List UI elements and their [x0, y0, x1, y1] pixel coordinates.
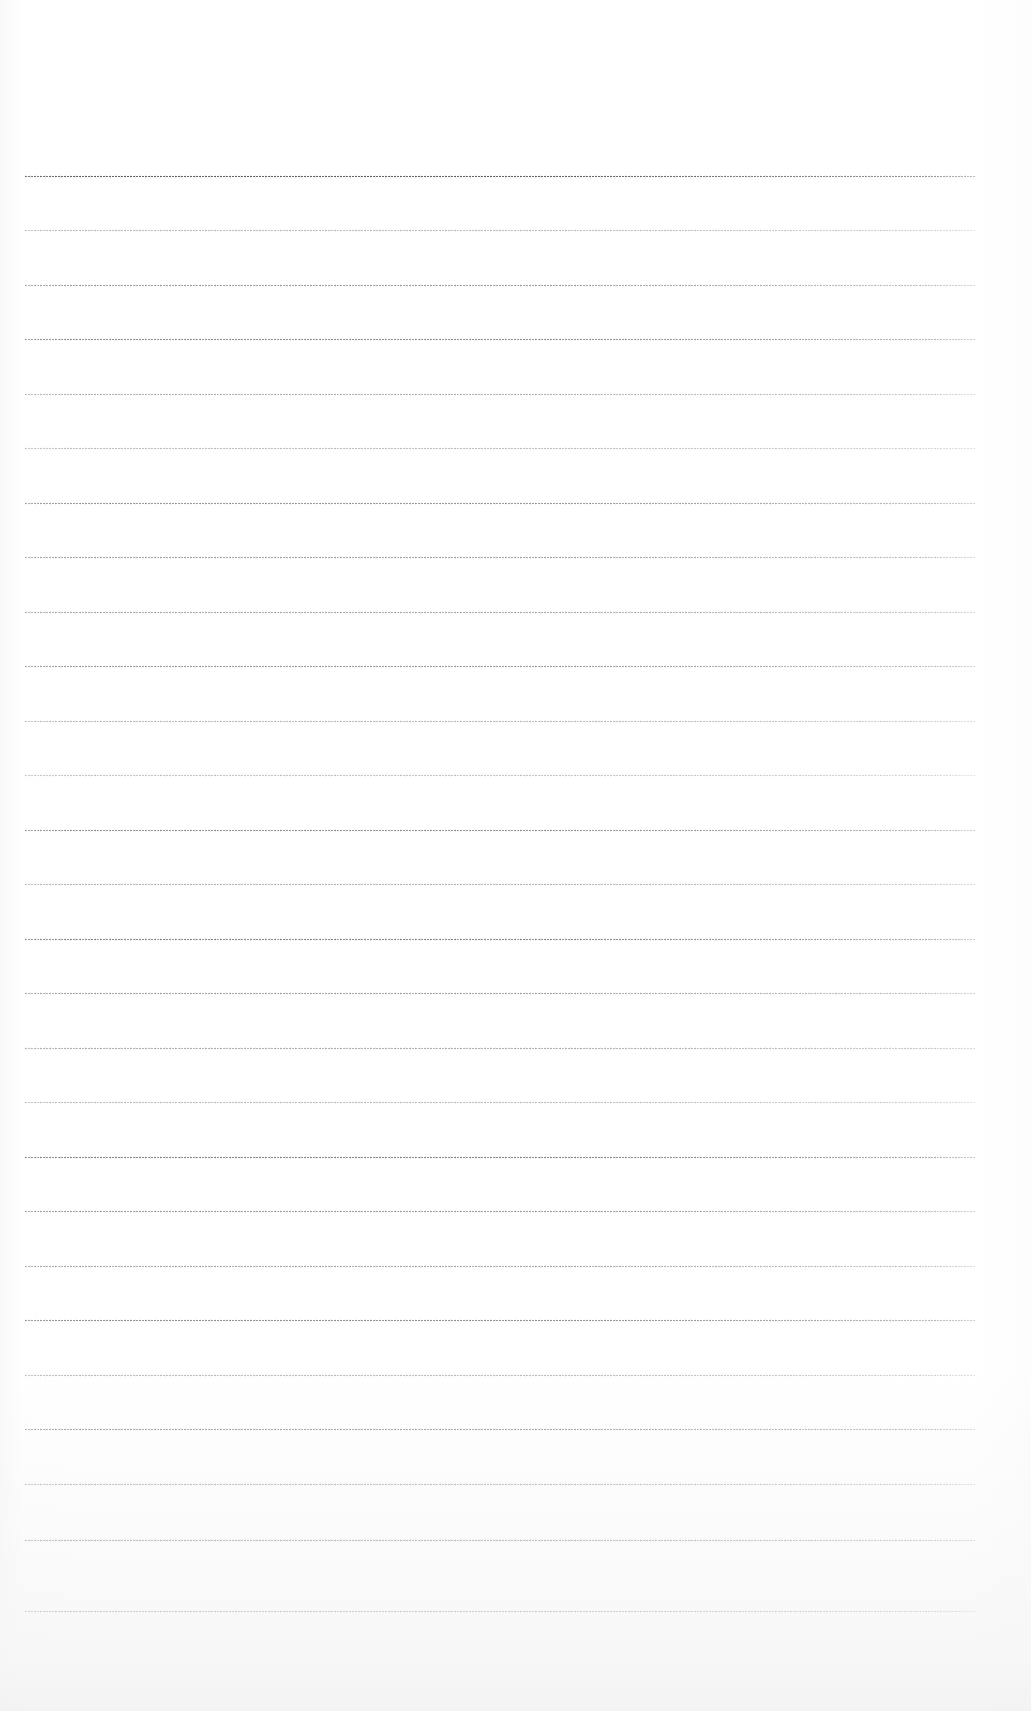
ruled-line-core: [25, 339, 975, 340]
ruled-line-core: [25, 993, 975, 994]
ruled-line: [25, 611, 975, 614]
ruled-line: [25, 992, 975, 995]
ruled-line-core: [25, 1102, 975, 1103]
ruled-line: [25, 1483, 975, 1486]
ruled-line: [25, 502, 975, 505]
ruled-line-core: [25, 939, 975, 940]
ruled-line: [25, 175, 975, 178]
ruled-line-core: [25, 1375, 975, 1376]
ruled-line-core: [25, 176, 975, 177]
ruled-line-core: [25, 775, 975, 776]
ruled-line-core: [25, 503, 975, 504]
ruled-line-core: [25, 1157, 975, 1158]
ruled-line-core: [25, 1266, 975, 1267]
ruled-line: [25, 556, 975, 559]
ruled-line: [25, 338, 975, 341]
ruled-line-core: [25, 830, 975, 831]
ruled-line: [25, 1374, 975, 1377]
ruled-line: [25, 1319, 975, 1322]
ruled-line: [25, 1610, 975, 1613]
ruled-line-core: [25, 1611, 975, 1612]
ruled-line-core: [25, 285, 975, 286]
ruled-line-core: [25, 394, 975, 395]
ruled-line: [25, 883, 975, 886]
scanned-page: [0, 0, 1031, 1711]
ruled-line: [25, 229, 975, 232]
ruled-line-core: [25, 1211, 975, 1212]
ruled-line-core: [25, 1320, 975, 1321]
ruled-line-core: [25, 612, 975, 613]
ruled-line: [25, 829, 975, 832]
ruled-line: [25, 284, 975, 287]
ruled-line-core: [25, 1540, 975, 1541]
ruled-line-core: [25, 884, 975, 885]
ruled-line: [25, 938, 975, 941]
ruled-line: [25, 1539, 975, 1542]
ruled-line-core: [25, 1048, 975, 1049]
ruled-line: [25, 665, 975, 668]
ruled-line-core: [25, 448, 975, 449]
ruled-line: [25, 393, 975, 396]
ruled-line: [25, 1047, 975, 1050]
ruled-line: [25, 774, 975, 777]
ruled-line: [25, 1265, 975, 1268]
ruled-line-core: [25, 1484, 975, 1485]
ruled-line: [25, 447, 975, 450]
ruled-line-core: [25, 1429, 975, 1430]
ruled-line-core: [25, 230, 975, 231]
ruled-line: [25, 1210, 975, 1213]
ruled-line-core: [25, 721, 975, 722]
ruled-line: [25, 720, 975, 723]
ruled-line: [25, 1428, 975, 1431]
ruled-lines-layer: [0, 0, 1031, 1711]
ruled-line: [25, 1156, 975, 1159]
ruled-line: [25, 1101, 975, 1104]
ruled-line-core: [25, 666, 975, 667]
ruled-line-core: [25, 557, 975, 558]
